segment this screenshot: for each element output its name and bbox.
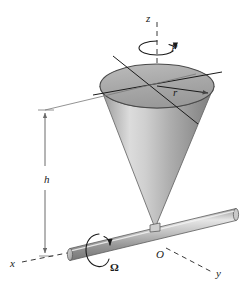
x-axis [22,252,72,262]
y-axis-label: y [216,268,221,279]
mechanics-figure: z p r h O y x Ω [0,0,244,289]
height-label: h [44,174,50,185]
origin-label: O [156,249,164,260]
z-axis-label: z [146,13,150,24]
y-axis [166,248,212,272]
apex-contact [150,223,160,232]
radius-label: r [173,87,177,98]
spin-rate-label: p [172,40,178,51]
figure-canvas [0,0,244,289]
rod-angular-velocity-label: Ω [110,262,119,273]
x-axis-label: x [10,258,15,269]
